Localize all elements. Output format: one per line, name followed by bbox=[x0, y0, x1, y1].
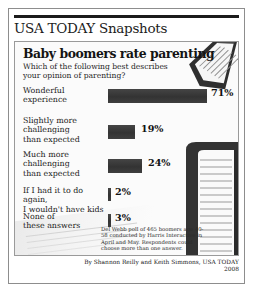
bar-row-label-line: these answers bbox=[23, 221, 109, 230]
bar-row-label: Slightly more challenging than expected bbox=[23, 116, 106, 144]
chart-headline: Baby boomers rate parenting bbox=[23, 47, 183, 61]
chart-panel: Baby boomers rate parenting Which of the… bbox=[14, 41, 239, 256]
bar-row-label-line: than expected bbox=[23, 169, 106, 178]
bar bbox=[108, 159, 142, 173]
bar-row-label-line: Slightly more bbox=[23, 116, 106, 125]
byline-year: 2008 bbox=[14, 266, 239, 273]
bar-value: 2% bbox=[115, 186, 131, 197]
bar-value: 19% bbox=[141, 123, 163, 134]
bar-row-label-line: experience bbox=[23, 95, 106, 104]
bar-row-label-line: None of bbox=[23, 212, 109, 221]
bar-row-label-line: Much more bbox=[23, 150, 106, 159]
chart-subhead: Which of the following best describes yo… bbox=[23, 62, 173, 80]
bar-row: Wonderful experience 71% bbox=[15, 86, 239, 116]
bar-row-label: None of these answers bbox=[23, 212, 109, 231]
bar-row: Slightly more challenging than expected … bbox=[15, 116, 239, 150]
header-rule bbox=[14, 15, 239, 18]
bar-row: Much more challenging than expected 24% bbox=[15, 150, 239, 184]
bar bbox=[108, 188, 111, 201]
bar-value: 24% bbox=[148, 157, 170, 168]
source-footnote: Del Webb poll of 465 boomers age 40-58 c… bbox=[101, 226, 205, 251]
bar-row-label-line: than expected bbox=[23, 135, 106, 144]
bar-row-label-line: challenging bbox=[23, 159, 106, 168]
bar-row: If I had it to do again, I wouldn't have… bbox=[15, 184, 239, 208]
usa-today-snapshot: USA TODAY Snapshots bbox=[0, 0, 253, 292]
bar-row-label-line: challenging bbox=[23, 125, 106, 134]
bar-row-label: Much more challenging than expected bbox=[23, 150, 106, 178]
bar-value: 71% bbox=[211, 87, 233, 98]
bar-value: 3% bbox=[115, 212, 131, 223]
brand-title: USA TODAY Snapshots bbox=[14, 19, 234, 38]
bar-rows: Wonderful experience 71% Slightly more c… bbox=[15, 86, 239, 232]
bar-row-label: Wonderful experience bbox=[23, 86, 106, 105]
bar-row-label-line: Wonderful bbox=[23, 86, 106, 95]
bar-row-label-line: If I had it to do again, bbox=[23, 186, 109, 205]
bar bbox=[108, 125, 135, 139]
bar bbox=[108, 89, 207, 103]
